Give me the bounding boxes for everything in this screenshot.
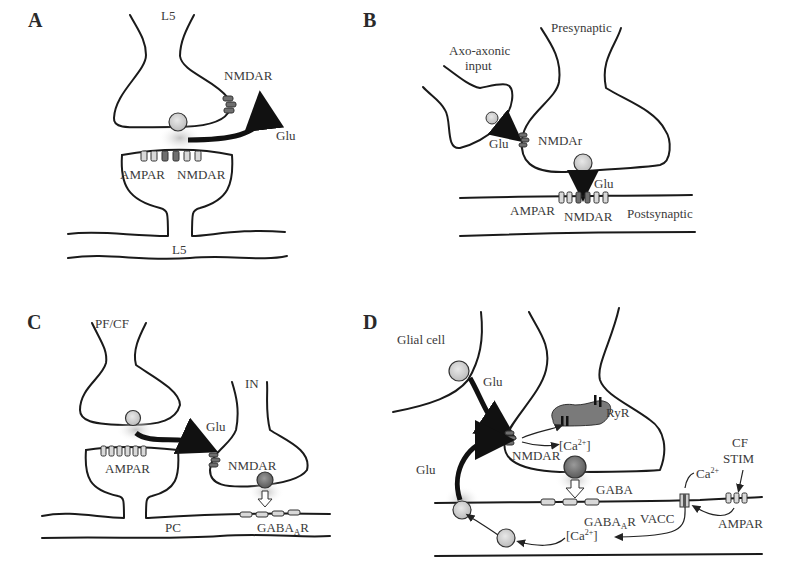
label-axo-line2: input: [465, 58, 492, 73]
presynaptic-terminal: [80, 323, 180, 425]
vesicle-icon: [126, 411, 141, 426]
panel-d: D Glial cell Glu RyR [Ca2+] NMDAR GABA: [363, 308, 763, 556]
vesicle-icon: [449, 361, 469, 381]
vesicle-icon: [497, 529, 515, 547]
label-glu: Glu: [276, 128, 296, 143]
label-nmdar-post: NMDAR: [177, 167, 226, 182]
er-store-icon: [552, 401, 611, 426]
label-gabaar: GABAAR: [257, 520, 309, 537]
presynaptic-terminal: [522, 28, 670, 172]
label-l5-top: L5: [161, 8, 175, 23]
ryr-channel-icon: [594, 395, 597, 405]
vesicle-gaba-icon: [564, 456, 586, 478]
vesicle-icon: [574, 154, 592, 172]
presynaptic-terminal: [114, 15, 228, 127]
label-ampar: AMPAR: [105, 461, 150, 476]
label-ca-post: [Ca2+]: [566, 528, 598, 543]
label-nmdar-presyn: NMDAr: [538, 133, 583, 148]
label-presynaptic: Presynaptic: [551, 20, 612, 35]
label-ampar: AMPAR: [510, 203, 555, 218]
ca-arrow-icon: [522, 426, 560, 438]
presynaptic-nmdar-icon: [519, 133, 529, 147]
label-pf-cf: PF/CF: [95, 316, 129, 331]
gabaa-receptors-icon: [541, 499, 599, 505]
postsynaptic-spine: [86, 447, 330, 518]
label-stim: STIM: [723, 451, 755, 466]
label-glu: Glu: [206, 419, 226, 434]
postsynaptic-spine: [122, 150, 285, 236]
glu-arrow-icon: [500, 124, 510, 132]
label-nmdar-presyn: NMDAR: [224, 68, 273, 83]
label-glu-left: Glu: [416, 462, 436, 477]
presynaptic-nmdar-icon: [209, 453, 220, 467]
label-l5-bottom: L5: [172, 242, 186, 257]
label-ampar: AMPAR: [120, 167, 165, 182]
ampar-receptors-icon: [726, 493, 747, 503]
panel-label-a: A: [28, 9, 43, 31]
panel-b: B Presynaptic Axo-axonic input Glu NMDAr…: [363, 9, 695, 236]
label-glu-top: Glu: [483, 374, 503, 389]
label-ryr: RyR: [606, 405, 630, 420]
label-axo-line1: Axo-axonic: [449, 43, 511, 58]
synapse-figure: A L5 NMDAR Glu L5 AMPAR NMDAR: [0, 0, 787, 575]
panel-label-c: C: [27, 311, 41, 333]
label-nmdar-post: NMDAR: [564, 209, 613, 224]
panel-a: A L5 NMDAR Glu L5 AMPAR NMDAR: [28, 8, 296, 259]
label-vacc: VACC: [640, 511, 674, 526]
label-ca-channel: Ca2+: [696, 466, 719, 481]
panel-label-d: D: [363, 311, 377, 333]
vesicle-icon: [486, 112, 498, 124]
panel-c: C PF/CF Glu AMPAR PC IN NMDAR: [27, 311, 330, 538]
label-pc: PC: [165, 520, 181, 535]
presynaptic-nmdar-icon: [505, 431, 516, 445]
label-in: IN: [245, 376, 259, 391]
label-gaba: GABA: [596, 482, 633, 497]
label-ampar: AMPAR: [718, 516, 763, 531]
presynaptic-nmdar-icon: [223, 96, 233, 101]
vesicle-icon: [169, 113, 187, 131]
label-glu-axo: Glu: [489, 136, 509, 151]
label-postsynaptic: Postsynaptic: [627, 206, 693, 221]
label-glu: Glu: [594, 176, 614, 191]
postsynaptic-receptors-icon: [141, 151, 201, 161]
vesicle-gaba-icon: [257, 472, 273, 488]
vesicle-icon: [453, 501, 471, 519]
panel-label-b: B: [363, 9, 376, 31]
label-nmdar: NMDAR: [228, 458, 277, 473]
label-glial-cell: Glial cell: [397, 332, 445, 347]
label-cf: CF: [732, 435, 748, 450]
stim-arrow-icon: [739, 470, 743, 489]
label-nmdar: NMDAR: [512, 448, 561, 463]
postsynaptic-receptors-icon: [559, 192, 608, 203]
label-ca-inner: [Ca2+]: [559, 438, 591, 453]
glial-cell: [393, 312, 482, 412]
